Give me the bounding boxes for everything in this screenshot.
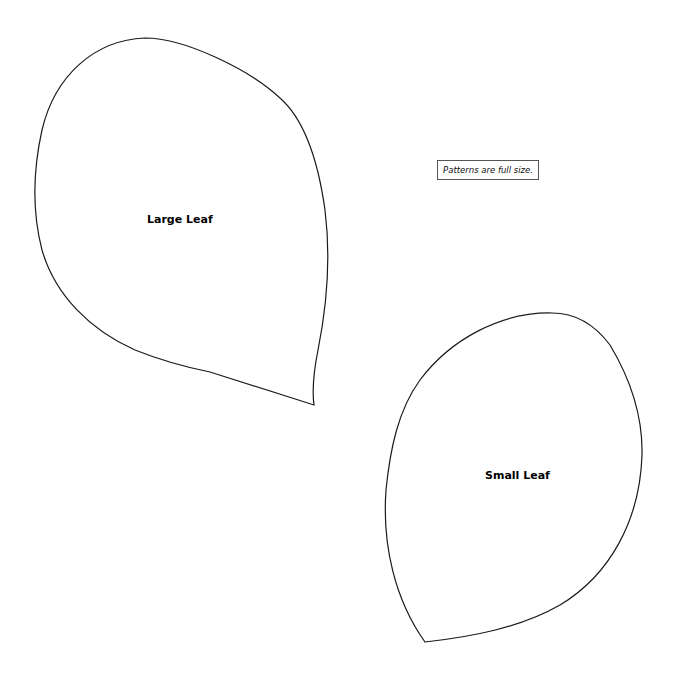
small-leaf-label: Small Leaf bbox=[485, 469, 550, 482]
large-leaf-label: Large Leaf bbox=[147, 213, 213, 226]
full-size-note-text: Patterns are full size. bbox=[443, 165, 533, 175]
pattern-outlines bbox=[0, 0, 682, 679]
full-size-note: Patterns are full size. bbox=[437, 160, 539, 180]
pattern-page: Large Leaf Small Leaf Patterns are full … bbox=[0, 0, 682, 679]
